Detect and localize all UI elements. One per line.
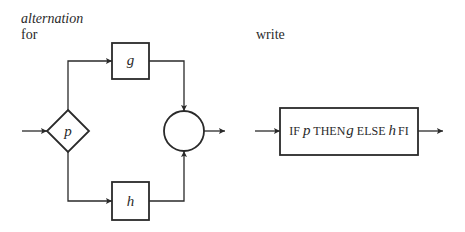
kw-if: IF <box>289 124 300 138</box>
false-branch-line <box>68 152 112 201</box>
kw-then: THEN <box>313 124 345 138</box>
h-to-join-line <box>149 151 184 201</box>
kw-else: ELSE <box>357 124 386 138</box>
var-p: p <box>302 122 311 138</box>
join-circle <box>164 111 204 151</box>
h-label: h <box>127 193 135 209</box>
true-branch-line <box>68 61 112 110</box>
g-to-join-line <box>149 61 184 111</box>
decision-label: p <box>63 123 72 139</box>
kw-fi: FI <box>398 124 409 138</box>
flowchart-canvas: p g h IF p THENg ELSE hFI <box>0 0 465 232</box>
g-label: g <box>127 52 135 68</box>
var-g: g <box>346 122 354 138</box>
statement-text: IF p THENg ELSE hFI <box>289 122 408 138</box>
alternation-flowchart <box>22 43 225 220</box>
var-h: h <box>388 122 396 138</box>
